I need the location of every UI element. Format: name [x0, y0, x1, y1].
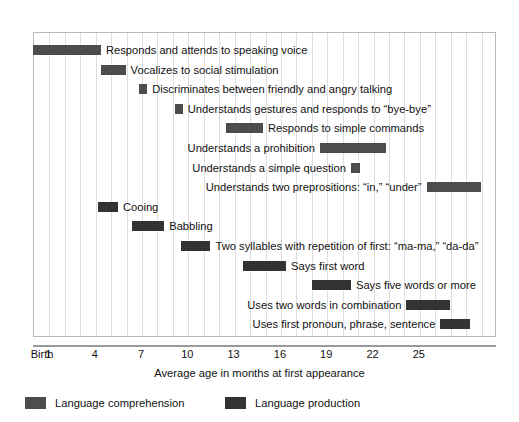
milestone-label: Two syllables with repetition of first: …	[215, 237, 478, 256]
legend-swatch-icon	[25, 397, 46, 409]
x-tick-10: 10	[164, 348, 210, 360]
milestone-label: Babbling	[169, 217, 213, 236]
milestone-bar	[320, 143, 386, 153]
milestone-label: Vocalizes to social stimulation	[131, 61, 279, 80]
milestone-bar	[175, 104, 183, 114]
milestone-label: Discriminates between friendly and angry…	[152, 80, 392, 99]
x-tick-4: 4	[72, 348, 118, 360]
x-tick-7: 7	[118, 348, 164, 360]
milestone-bar	[98, 202, 118, 212]
legend-label: Language production	[255, 397, 360, 409]
milestone-bar	[312, 280, 351, 290]
chart-row: Responds to simple commands	[0, 119, 519, 138]
chart-row: Says five words or more	[0, 276, 519, 295]
milestone-bar	[351, 163, 360, 173]
milestone-bar	[33, 45, 101, 55]
x-tick-19: 19	[303, 348, 349, 360]
chart-row: Babbling	[0, 217, 519, 236]
milestone-bar	[181, 241, 210, 251]
milestone-label: Says first word	[291, 257, 364, 276]
chart-row: Responds and attends to speaking voice	[0, 41, 519, 60]
milestone-bar	[101, 65, 126, 75]
chart-row: Uses first pronoun, phrase, sentence	[0, 315, 519, 334]
chart-row: Understands a prohibition	[0, 139, 519, 158]
milestone-label: Responds and attends to speaking voice	[106, 41, 308, 60]
milestone-label: Understands two preprositions: “in,” “un…	[0, 178, 422, 197]
chart-row: Uses two words in combination	[0, 296, 519, 315]
chart-row: Discriminates between friendly and angry…	[0, 80, 519, 99]
x-axis-line	[33, 345, 496, 347]
milestone-label: Uses two words in combination	[0, 296, 401, 315]
language-milestones-chart: Responds and attends to speaking voiceVo…	[0, 0, 519, 422]
legend-label: Language comprehension	[55, 397, 184, 409]
x-axis-title: Average age in months at first appearanc…	[0, 367, 519, 379]
milestone-label: Says five words or more	[356, 276, 476, 295]
milestone-label: Understands gestures and responds to “by…	[188, 100, 431, 119]
chart-row: Understands gestures and responds to “by…	[0, 100, 519, 119]
chart-row: Two syllables with repetition of first: …	[0, 237, 519, 256]
milestone-label: Understands a simple question	[0, 159, 346, 178]
x-tick-25: 25	[396, 348, 442, 360]
milestone-label: Responds to simple commands	[268, 119, 424, 138]
milestone-bar	[406, 300, 449, 310]
x-tick-13: 13	[211, 348, 257, 360]
legend-item: Language comprehension	[25, 392, 184, 414]
chart-row: Cooing	[0, 198, 519, 217]
milestone-bar	[427, 182, 481, 192]
x-tick-16: 16	[257, 348, 303, 360]
milestone-label: Understands a prohibition	[0, 139, 315, 158]
milestone-bar	[139, 84, 147, 94]
x-tick-22: 22	[350, 348, 396, 360]
chart-row: Understands a simple question	[0, 159, 519, 178]
x-tick-1: 1	[25, 348, 71, 360]
milestone-bar	[440, 319, 469, 329]
milestone-bar	[243, 261, 286, 271]
chart-legend: Language comprehensionLanguage productio…	[25, 392, 495, 416]
milestone-bar	[132, 221, 164, 231]
legend-item: Language production	[225, 392, 360, 414]
legend-swatch-icon	[225, 397, 246, 409]
milestone-label: Uses first pronoun, phrase, sentence	[0, 315, 435, 334]
chart-row: Vocalizes to social stimulation	[0, 61, 519, 80]
milestone-label: Cooing	[123, 198, 158, 217]
chart-row: Says first word	[0, 257, 519, 276]
chart-row: Understands two preprositions: “in,” “un…	[0, 178, 519, 197]
milestone-bar	[226, 123, 263, 133]
